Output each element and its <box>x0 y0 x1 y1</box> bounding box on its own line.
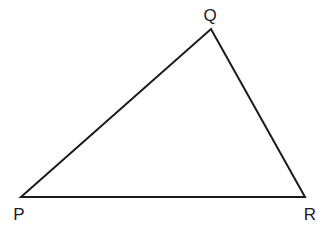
triangle-diagram: P Q R <box>0 0 326 235</box>
vertex-label-r: R <box>304 205 316 224</box>
triangle-pqr <box>21 29 305 197</box>
vertex-label-p: P <box>13 205 24 224</box>
diagram-canvas: P Q R <box>0 0 326 235</box>
vertex-label-q: Q <box>203 6 216 25</box>
